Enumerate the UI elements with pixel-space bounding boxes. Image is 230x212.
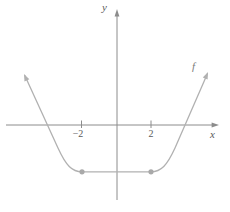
closed-point-right	[148, 169, 153, 174]
curve-f-label: f	[192, 61, 195, 72]
tick-label-neg2: −2	[68, 129, 88, 139]
curve-right-arrowhead	[203, 72, 208, 79]
function-graph-figure: y x f −2 2	[0, 0, 230, 212]
plot-canvas	[0, 0, 230, 212]
y-axis-label: y	[102, 2, 107, 13]
tick-label-pos2: 2	[141, 129, 161, 139]
x-axis-arrowhead	[212, 123, 219, 128]
y-axis-arrowhead	[115, 9, 120, 16]
curve-left-arrowhead	[24, 74, 29, 82]
closed-point-left	[79, 169, 84, 174]
curve-f	[25, 74, 208, 172]
x-axis-label: x	[210, 129, 215, 140]
